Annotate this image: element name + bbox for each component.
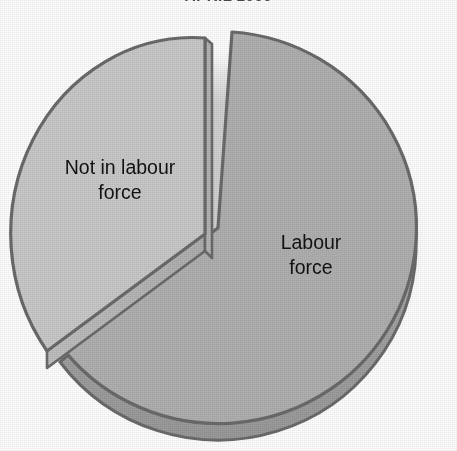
pie-chart-figure: APRIL 2000 — [0, 0, 457, 451]
pie-chart-canvas — [0, 0, 457, 451]
